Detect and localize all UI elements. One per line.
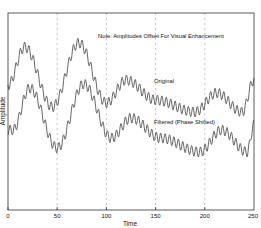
x-axis-label: Time	[123, 220, 138, 227]
amplitude-time-chart: 0 50 100 150 200 250 Time Amplitude Note…	[0, 0, 261, 228]
x-tick-label-250: 250	[248, 213, 259, 219]
series-filtered-line	[8, 80, 254, 157]
plot-frame	[8, 13, 254, 210]
filtered-series-label: Filtered (Phase Shifted)	[154, 119, 215, 125]
note-annotation: Note: Amplitudes Offset For Visual Enhan…	[98, 33, 224, 39]
x-tick-label-200: 200	[200, 213, 211, 219]
series-original-line	[8, 38, 254, 117]
x-axis-ticks	[8, 207, 205, 210]
x-tick-label-150: 150	[151, 213, 162, 219]
x-tick-label-100: 100	[101, 213, 112, 219]
x-tick-label-50: 50	[54, 213, 61, 219]
y-axis-label: Amplitude	[0, 96, 7, 125]
original-series-label: Original	[154, 78, 174, 84]
x-tick-label-0: 0	[6, 213, 10, 219]
